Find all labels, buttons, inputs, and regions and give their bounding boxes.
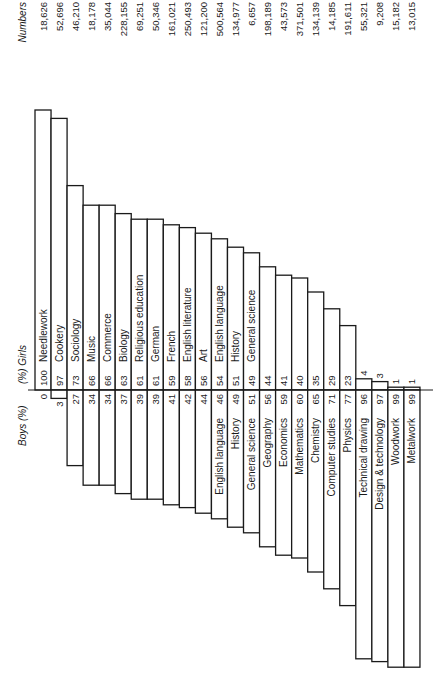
number-computer-studies: 14,185 <box>326 2 337 31</box>
number-german: 50,346 <box>150 2 161 31</box>
girls-subject-label-religious-education: Religious education <box>134 275 145 362</box>
number-art: 121,200 <box>198 2 209 36</box>
number-mathematics: 371,501 <box>294 2 305 36</box>
boys-subject-label-mathematics: Mathematics <box>294 418 305 475</box>
girls-pct-woodwork: 1 <box>390 379 401 384</box>
boys-subject-label-metalwork: Metalwork <box>406 417 417 464</box>
number-religious-education: 69,251 <box>134 2 145 31</box>
number-english-language: 500,564 <box>214 2 225 36</box>
girls-subject-label-sociology: Sociology <box>70 319 81 362</box>
girls-axis-label: (%) Girls <box>17 345 28 384</box>
boys-subject-label-economics: Economics <box>278 418 289 467</box>
boys-subject-label-computer-studies: Computer studies <box>326 418 337 496</box>
girls-bar-biology <box>115 214 131 390</box>
girls-pct-design-technology: 3 <box>374 373 385 378</box>
boys-bar-english-literature <box>179 390 195 508</box>
boys-pct-religious-education: 39 <box>134 394 145 405</box>
boys-pct-commerce: 34 <box>102 394 113 405</box>
girls-bar-design-technology <box>372 382 388 390</box>
number-economics: 43,573 <box>278 2 289 31</box>
girls-pct-mathematics: 40 <box>294 375 305 386</box>
girls-pct-english-language: 54 <box>214 375 225 386</box>
boys-bar-french <box>163 390 179 505</box>
boys-pct-french: 41 <box>166 394 177 405</box>
boys-pct-sociology: 27 <box>70 394 81 405</box>
boys-pct-physics: 77 <box>342 394 353 405</box>
boys-pct-economics: 59 <box>278 394 289 405</box>
girls-bar-history <box>227 247 243 390</box>
bars-layer <box>35 110 420 667</box>
girls-subject-label-needlework: Needlework <box>38 308 49 362</box>
girls-pct-technical-drawing: 4 <box>358 371 369 376</box>
boys-bar-history <box>227 390 243 527</box>
girls-bar-chemistry <box>308 292 324 390</box>
boys-subject-label-history: History <box>230 418 241 449</box>
boys-pct-history: 49 <box>230 394 241 405</box>
boys-subject-label-english-language: English language <box>214 418 225 495</box>
number-sociology: 46,210 <box>70 2 81 31</box>
number-history: 134,977 <box>230 2 241 36</box>
number-english-literature: 250,493 <box>182 2 193 36</box>
number-design-technology: 9,208 <box>374 2 385 26</box>
girls-subject-label-commerce: Commerce <box>102 313 113 362</box>
boys-subject-label-design-technology: Design & technology <box>374 418 385 510</box>
number-biology: 228,155 <box>118 2 129 36</box>
number-woodwork: 15,182 <box>390 2 401 31</box>
girls-pct-physics: 23 <box>342 375 353 386</box>
boys-subject-label-geography: Geography <box>262 418 273 467</box>
boys-pct-german: 39 <box>150 394 161 405</box>
girls-pct-cookery: 97 <box>54 375 65 386</box>
boys-pct-english-literature: 42 <box>182 394 193 405</box>
boys-pct-biology: 37 <box>118 394 129 405</box>
girls-bar-art <box>195 233 211 390</box>
number-cookery: 52,696 <box>54 2 65 31</box>
boys-bar-art <box>195 390 211 513</box>
girls-pct-french: 59 <box>166 375 177 386</box>
boys-pct-music: 34 <box>86 394 97 405</box>
girls-pct-religious-education: 61 <box>134 375 145 386</box>
number-geography: 198,189 <box>262 2 273 36</box>
boys-pct-art: 44 <box>198 394 209 405</box>
boys-pct-general-science: 51 <box>246 394 257 405</box>
number-chemistry: 134,139 <box>310 2 321 36</box>
girls-bar-french <box>163 225 179 390</box>
girls-bar-mathematics <box>292 278 308 390</box>
boys-bar-economics <box>276 390 292 555</box>
boys-bar-chemistry <box>308 390 324 572</box>
girls-subject-label-english-literature: English literature <box>182 287 193 362</box>
boys-pct-technical-drawing: 96 <box>358 394 369 405</box>
girls-pct-english-literature: 58 <box>182 375 193 386</box>
boys-subject-label-chemistry: Chemistry <box>310 418 321 463</box>
boys-pct-mathematics: 60 <box>294 394 305 405</box>
number-physics: 191,611 <box>342 2 353 36</box>
number-general-science: 6,657 <box>246 2 257 26</box>
boys-bar-german <box>147 390 163 499</box>
boys-pct-needlework: 0 <box>38 394 49 399</box>
girls-pct-general-science: 49 <box>246 375 257 386</box>
boys-pct-woodwork: 99 <box>390 394 401 405</box>
number-commerce: 35,044 <box>102 2 113 31</box>
number-technical-drawing: 55,321 <box>358 2 369 31</box>
girls-pct-sociology: 73 <box>70 375 81 386</box>
boys-pct-metalwork: 99 <box>406 394 417 405</box>
girls-pct-german: 61 <box>150 375 161 386</box>
girls-subject-label-general-science: General science <box>246 289 257 362</box>
girls-subject-label-biology: Biology <box>118 329 129 362</box>
girls-subject-label-german: German <box>150 326 161 362</box>
boys-subject-label-physics: Physics <box>342 418 353 452</box>
girls-pct-economics: 41 <box>278 375 289 386</box>
girls-pct-geography: 44 <box>262 375 273 386</box>
boys-pct-english-language: 46 <box>214 394 225 405</box>
girls-subject-label-art: Art <box>198 349 209 362</box>
girls-pct-biology: 63 <box>118 375 129 386</box>
numbers-header: Numbers <box>17 2 28 43</box>
boys-axis-label: Boys (%) <box>17 405 28 446</box>
boys-pct-geography: 56 <box>262 394 273 405</box>
boys-bar-cookery <box>51 390 67 398</box>
girls-pct-music: 66 <box>86 375 97 386</box>
boys-pct-computer-studies: 71 <box>326 394 337 405</box>
girls-subject-label-cookery: Cookery <box>54 325 65 362</box>
number-metalwork: 13,015 <box>406 2 417 31</box>
boys-pct-design-technology: 97 <box>374 394 385 405</box>
number-needlework: 18,626 <box>38 2 49 31</box>
